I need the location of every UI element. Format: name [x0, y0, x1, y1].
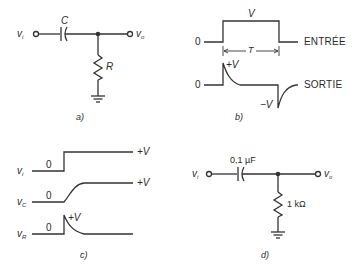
input-terminal-d	[207, 172, 212, 177]
vc-final-label-c: +V	[137, 178, 150, 188]
diagram-canvas	[0, 0, 354, 271]
input-voltage-label-d: vi	[192, 169, 198, 180]
output-terminal-a	[128, 32, 133, 37]
resistor-value-d: 1 kΩ	[287, 200, 306, 209]
output-waveform-name-b: SORTIE	[304, 80, 342, 90]
resistor-a	[94, 55, 102, 80]
input-zero-label-b: 0	[195, 37, 201, 47]
capacitor-value-d: 0,1 µF	[230, 156, 256, 165]
caption-c: c)	[80, 251, 88, 260]
caption-b: b)	[235, 113, 243, 122]
caption-d: d)	[261, 251, 269, 260]
input-terminal-a	[34, 32, 39, 37]
output-zero-label-b: 0	[195, 80, 201, 90]
circuit-a	[34, 27, 133, 102]
vc-zero-label-c: 0	[46, 191, 52, 201]
vi-label-c: vi	[17, 166, 23, 177]
vr-label-c: vR	[17, 229, 26, 240]
caption-a: a)	[76, 113, 84, 122]
output-negative-peak-label-b: −V	[260, 100, 273, 110]
resistor-label-a: R	[106, 62, 113, 72]
input-amplitude-label-b: V	[248, 9, 255, 19]
vi-zero-label-c: 0	[46, 160, 52, 170]
vr-peak-label-c: +V	[68, 213, 81, 223]
output-voltage-label-d: vo	[324, 169, 332, 180]
vc-label-c: vC	[17, 197, 26, 208]
vr-zero-label-c: 0	[46, 223, 52, 233]
output-positive-peak-label-b: +V	[226, 60, 239, 70]
period-label-b: T	[248, 46, 254, 55]
capacitor-label-a: C	[61, 16, 68, 26]
input-voltage-label-a: vi	[17, 29, 23, 40]
waveform-output-b	[204, 63, 298, 108]
waveform-input-b	[204, 21, 298, 42]
output-voltage-label-a: vo	[136, 29, 144, 40]
vi-final-label-c: +V	[137, 147, 150, 157]
input-waveform-name-b: ENTRÉE	[304, 37, 346, 47]
output-terminal-d	[316, 172, 321, 177]
resistor-d	[274, 192, 282, 217]
